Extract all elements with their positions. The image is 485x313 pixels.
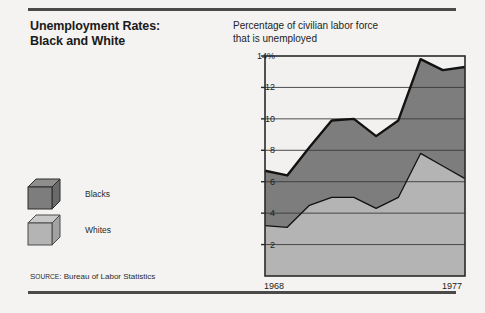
legend-label-blacks: Blacks bbox=[85, 189, 110, 199]
legend-label-whites: Whites bbox=[85, 225, 111, 235]
source-text: Bureau of Labor Statistics bbox=[64, 272, 156, 281]
cube-icon bbox=[27, 214, 61, 246]
chart-figure: Unemployment Rates: Black and White Blac… bbox=[0, 0, 485, 313]
source-prefix-rest: OURCE bbox=[35, 273, 59, 280]
y-tick-label: 6 bbox=[270, 177, 275, 187]
chart-area: 2468101214%19681977 bbox=[228, 50, 478, 290]
y-tick-label: 8 bbox=[270, 145, 275, 155]
x-tick-label: 1968 bbox=[264, 281, 284, 291]
chart-subtitle-line-2: that is unemployed bbox=[233, 32, 463, 45]
cube-icon bbox=[27, 178, 61, 210]
source-colon: : bbox=[59, 272, 61, 281]
x-tick-label: 1977 bbox=[442, 281, 462, 291]
page-title-line-1: Unemployment Rates: bbox=[30, 19, 220, 34]
source-note: SOURCE: Bureau of Labor Statistics bbox=[30, 272, 155, 281]
y-tick-label: 2 bbox=[270, 240, 275, 250]
chart-subtitle: Percentage of civilian labor force that … bbox=[233, 19, 463, 45]
y-tick-label: 10 bbox=[265, 114, 275, 124]
page-title: Unemployment Rates: Black and White bbox=[30, 19, 220, 49]
y-tick-label: 14% bbox=[257, 51, 275, 61]
page-title-line-2: Black and White bbox=[30, 34, 220, 49]
chart-subtitle-line-1: Percentage of civilian labor force bbox=[233, 19, 463, 32]
top-rule bbox=[28, 8, 456, 11]
y-tick-label: 12 bbox=[265, 82, 275, 92]
bottom-rule bbox=[28, 291, 456, 294]
y-tick-label: 4 bbox=[270, 208, 275, 218]
